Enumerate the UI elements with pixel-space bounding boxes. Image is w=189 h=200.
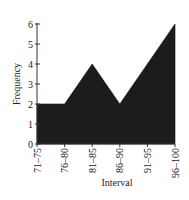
- x-tick-label: 81–85: [87, 148, 98, 173]
- y-tick-label: 5: [28, 39, 33, 50]
- x-axis-title: Interval: [101, 177, 132, 188]
- x-axis: 71–7576–8081–8586–9091–9596–100: [32, 144, 181, 178]
- y-tick-label: 2: [28, 99, 33, 110]
- x-tick-label: 91–95: [142, 148, 153, 173]
- frequency-area-chart: 0123456 71–7576–8081–8586–9091–9596–100 …: [0, 0, 189, 200]
- y-tick-label: 1: [28, 119, 33, 130]
- x-tick-label: 71–75: [32, 148, 43, 173]
- area-fill: [37, 24, 175, 144]
- plot-area: [37, 24, 175, 144]
- x-tick-label: 76–80: [59, 148, 70, 173]
- y-axis-title: Frequency: [11, 63, 22, 105]
- x-tick-label: 86–90: [114, 148, 125, 173]
- y-tick-label: 6: [28, 19, 33, 30]
- y-tick-label: 3: [28, 79, 33, 90]
- y-tick-label: 4: [28, 59, 33, 70]
- x-tick-label: 96–100: [170, 148, 181, 178]
- y-tick-label: 0: [28, 139, 33, 150]
